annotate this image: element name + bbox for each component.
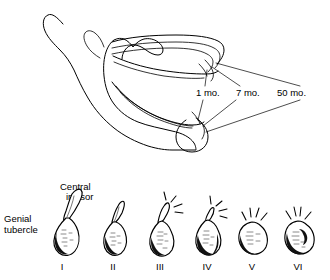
stage-V-tubercle [239, 222, 268, 254]
stage-II-figure [104, 201, 127, 255]
mandible-drawing: 1 mo. 7 mo. 50 mo. [43, 14, 306, 152]
leader-7mo-lower [203, 100, 236, 126]
figure-canvas: 1 mo. 7 mo. 50 mo. Central incisor Genia… [0, 0, 330, 280]
stage-IV-figure [196, 196, 227, 255]
stage-II-tubercle [104, 222, 127, 255]
mandible-basal-arc-inner2 [120, 92, 192, 128]
genial-tubercle-label-line2: tubercle [4, 224, 38, 235]
time-label-7mo: 7 mo. [236, 87, 260, 98]
stage-VI-tubercle [285, 221, 314, 254]
mandible-basal-arc [112, 82, 204, 125]
stage-numeral-4: IV [203, 261, 213, 272]
mandible-basal-arc-inner [116, 86, 193, 126]
leader-7mo-upper [212, 67, 240, 86]
time-label-1mo: 1 mo. [196, 87, 220, 98]
stage-III-incisor-stump [158, 203, 169, 224]
anatomical-figure: 1 mo. 7 mo. 50 mo. Central incisor Genia… [0, 0, 330, 280]
ridge-contour-1mo-upper [112, 35, 224, 64]
stage-numeral-3: III [156, 261, 164, 272]
stage-numeral-5: V [249, 261, 256, 272]
stage-VI-rays [286, 207, 311, 219]
stage-numeral-1: I [61, 261, 64, 272]
time-label-50mo: 50 mo. [277, 87, 306, 98]
stage-III-figure [150, 192, 183, 256]
stage-series: Central incisor Genial tubercle [4, 181, 314, 272]
stage-V-figure [239, 208, 268, 254]
alveolar-crest-sweep [113, 56, 218, 74]
stage-numeral-6: VI [294, 261, 303, 272]
stage-II-incisor [112, 201, 124, 224]
ridge-contour-7mo-upper [112, 42, 220, 68]
stage-numeral-2: II [110, 261, 115, 272]
leader-1mo-lower [198, 100, 203, 120]
leader-50mo-lower [206, 100, 300, 132]
stage-VI-figure [285, 207, 314, 254]
stage-V-rays [242, 208, 267, 220]
genial-tubercle-label-line1: Genial [4, 213, 31, 224]
coronoid-process [84, 31, 104, 58]
genial-tubercle-profile [196, 118, 204, 139]
leader-50mo-upper [216, 63, 300, 86]
